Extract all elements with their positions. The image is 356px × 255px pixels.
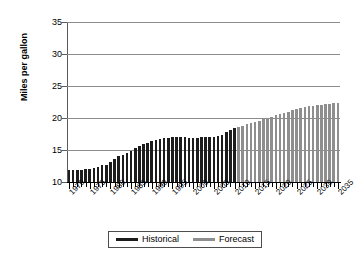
bar-2018 [266,118,269,182]
bar-2008 [225,132,228,182]
bar-2006 [217,136,220,182]
bar-2012 [241,126,244,182]
bar-2004 [208,137,211,182]
y-axis-title: Miles per gallon [19,7,29,127]
bar-1987 [138,146,141,182]
y-tick-label: 20 [38,114,62,123]
bar-1992 [159,139,162,182]
bar-2030 [316,105,319,182]
bars-layer [67,22,340,182]
bar-1993 [163,138,166,182]
bar-1988 [142,144,145,182]
bar-1984 [126,153,129,182]
bar-2003 [204,137,207,182]
chart-legend: HistoricalForecast [108,231,262,248]
y-tick-mark-30 [62,54,67,55]
bar-1994 [167,138,170,182]
y-tick-mark-15 [62,150,67,151]
legend-swatch-historical [116,238,138,241]
bar-2022 [283,113,286,182]
bar-1990 [150,141,153,182]
bar-2002 [200,137,203,182]
bar-2028 [308,106,311,182]
fuel-economy-bar-chart: Miles per gallon HistoricalForecast 1015… [0,0,356,255]
bar-1998 [184,137,187,182]
y-tick-mark-25 [62,86,67,87]
bar-1986 [134,148,137,182]
bar-2013 [246,124,249,182]
y-tick-label: 35 [38,18,62,27]
bar-1985 [130,151,133,182]
bar-1975 [88,169,91,182]
y-tick-label: 25 [38,82,62,91]
bar-1971 [72,170,75,182]
y-tick-label: 10 [38,178,62,187]
bar-1970 [68,170,71,182]
bar-2033 [328,104,331,182]
bar-1996 [175,137,178,182]
bar-1974 [84,169,87,182]
bar-2027 [304,107,307,182]
bar-2016 [258,121,261,182]
legend-item-forecast: Forecast [193,234,254,244]
bar-1976 [93,168,96,182]
y-tick-label: 30 [38,50,62,59]
bar-1995 [171,137,174,182]
bar-1989 [146,143,149,182]
bar-1997 [179,137,182,182]
bar-2032 [324,104,327,182]
bar-2019 [270,117,273,182]
bar-2000 [192,138,195,182]
y-tick-label: 15 [38,146,62,155]
bar-1999 [188,138,191,182]
bar-2007 [221,135,224,182]
bar-2035 [337,103,340,182]
bar-2001 [196,138,199,182]
y-tick-mark-35 [62,22,67,23]
bar-2017 [262,119,265,182]
legend-item-historical: Historical [116,234,179,244]
legend-label: Historical [142,234,179,244]
bar-2005 [213,137,216,182]
bar-2023 [287,112,290,182]
bar-2029 [312,106,315,182]
bar-1991 [155,140,158,182]
bar-1980 [109,162,112,182]
bar-2020 [275,115,278,182]
bar-2031 [320,105,323,182]
bar-2015 [254,122,257,182]
bar-1979 [105,165,108,182]
bar-2011 [237,127,240,182]
bar-2014 [250,123,253,182]
legend-swatch-forecast [193,238,215,241]
legend-label: Forecast [219,234,254,244]
bar-2026 [299,108,302,182]
bar-2025 [295,109,298,182]
bar-2009 [229,130,232,182]
bar-1981 [113,159,116,182]
y-tick-mark-10 [62,182,67,183]
y-tick-mark-20 [62,118,67,119]
bar-2010 [233,128,236,182]
bar-2021 [279,114,282,182]
bar-2024 [291,110,294,182]
bar-2034 [332,103,335,182]
